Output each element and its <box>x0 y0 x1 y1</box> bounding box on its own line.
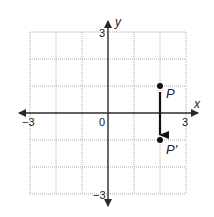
axes <box>19 21 198 206</box>
tick-label-y-max: 3 <box>99 27 105 39</box>
x-axis-label: x <box>193 97 201 111</box>
coordinate-plane: x y −3 3 3 −3 0 P P′ <box>0 0 214 217</box>
tick-label-y-min: −3 <box>93 189 106 201</box>
point-p-label: P <box>166 86 175 101</box>
tick-label-x-min: −3 <box>22 116 35 128</box>
y-axis-label: y <box>114 15 122 29</box>
point-p-prime-label: P′ <box>166 142 178 157</box>
tick-label-x-max: 3 <box>182 116 188 128</box>
point-p <box>157 83 163 89</box>
point-p-prime <box>157 137 163 143</box>
coordinate-plane-figure: x y −3 3 3 −3 0 P P′ <box>0 0 214 217</box>
origin-label: 0 <box>99 116 105 128</box>
